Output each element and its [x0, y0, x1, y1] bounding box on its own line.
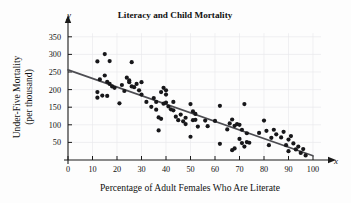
data-point [108, 59, 112, 63]
data-point [135, 82, 139, 86]
data-point [159, 117, 163, 121]
y-tick-label: 150 [49, 103, 61, 112]
chart-figure: 0102030405060708090100 50100150200250300… [0, 0, 351, 203]
y-tick-label: 250 [49, 68, 61, 77]
y-tick-label: 350 [49, 33, 61, 42]
y-axis-title-line2: (per thousand) [23, 69, 35, 125]
y-axis-title-line1: Under-Five Mortality [11, 55, 22, 138]
data-point [159, 90, 163, 94]
data-point [171, 108, 175, 112]
data-point [139, 80, 143, 84]
x-tick-label: 80 [260, 165, 268, 174]
data-point [120, 83, 124, 87]
x-tick-label: 60 [211, 165, 219, 174]
x-axis-title: Percentage of Adult Females Who Are Lite… [100, 182, 280, 193]
data-point [176, 118, 180, 122]
data-point [296, 145, 300, 149]
data-point [299, 151, 303, 155]
data-point [289, 134, 293, 138]
data-point [105, 94, 109, 98]
data-point [164, 88, 168, 92]
data-point [130, 60, 134, 64]
data-point [154, 100, 158, 104]
x-tick-label: 70 [235, 165, 243, 174]
data-point [144, 100, 148, 104]
data-point [193, 118, 197, 122]
data-point [164, 101, 168, 105]
data-point [245, 131, 249, 135]
data-point [225, 127, 229, 131]
x-tick-label: 20 [113, 165, 121, 174]
data-point [188, 102, 192, 106]
data-point [272, 128, 276, 132]
x-tick-label: 100 [307, 165, 319, 174]
data-point [174, 115, 178, 119]
data-point [95, 96, 99, 100]
y-tick-labels: 50100150200250300350 [49, 33, 61, 148]
data-point [267, 143, 271, 147]
data-point [218, 142, 222, 146]
data-point [218, 104, 222, 108]
y-tick-label: 300 [49, 50, 61, 59]
data-point [279, 135, 283, 139]
data-point [257, 131, 261, 135]
data-point [274, 132, 278, 136]
data-point [203, 118, 207, 122]
data-point [242, 145, 246, 149]
data-point [304, 153, 308, 157]
data-point [233, 146, 237, 150]
data-point [122, 89, 126, 93]
data-point [184, 122, 188, 126]
data-point [269, 136, 273, 140]
scatter-plot: 0102030405060708090100 50100150200250300… [0, 0, 351, 203]
data-point [164, 92, 168, 96]
data-point [117, 101, 121, 105]
data-point [139, 92, 143, 96]
data-point [286, 137, 290, 141]
data-point [95, 59, 99, 63]
data-point [264, 129, 268, 133]
data-point [240, 141, 244, 145]
data-point [301, 147, 305, 151]
x-tick-label: 50 [186, 165, 194, 174]
x-axis-name: x [333, 156, 338, 166]
x-tick-label: 30 [137, 165, 145, 174]
data-point [291, 141, 295, 145]
data-point [196, 124, 200, 128]
data-point [242, 102, 246, 106]
x-tick-label: 0 [66, 165, 70, 174]
data-point [152, 96, 156, 100]
data-point [262, 118, 266, 122]
data-point [237, 123, 241, 127]
x-tick-label: 90 [284, 165, 292, 174]
data-point [127, 80, 131, 84]
data-point [137, 88, 141, 92]
data-point [206, 124, 210, 128]
data-point [188, 135, 192, 139]
data-point [237, 137, 241, 141]
y-axis-name: y [66, 10, 71, 20]
data-point [103, 73, 107, 77]
x-tick-labels: 0102030405060708090100 [66, 165, 319, 174]
data-point [213, 119, 217, 123]
data-point [286, 149, 290, 153]
data-point [112, 86, 116, 90]
x-tick-label: 40 [162, 165, 170, 174]
data-point [171, 100, 175, 104]
data-point [193, 112, 197, 116]
data-point [179, 112, 183, 116]
data-point [154, 108, 158, 112]
data-point [98, 77, 102, 81]
data-point [247, 141, 251, 145]
chart-title: Literacy and Child Mortality [118, 10, 233, 20]
data-point [103, 52, 107, 56]
data-point [95, 90, 99, 94]
x-tick-label: 10 [88, 165, 96, 174]
y-tick-label: 200 [49, 86, 61, 95]
data-point [282, 130, 286, 134]
data-point [157, 128, 161, 132]
data-point [100, 93, 104, 97]
data-point [184, 116, 188, 120]
data-point [240, 128, 244, 132]
data-points-group [95, 52, 307, 158]
